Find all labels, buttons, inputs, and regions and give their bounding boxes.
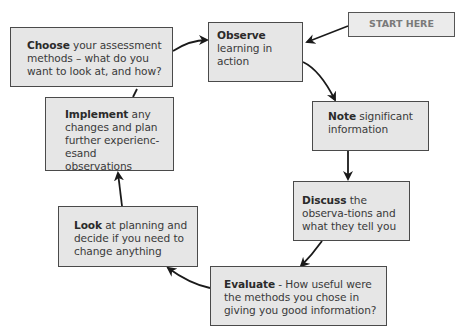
- arrow-evaluate-to-look: [168, 268, 210, 288]
- step-evaluate: Evaluate - How useful were the methods y…: [210, 266, 387, 326]
- step-note-keyword: Note: [328, 110, 356, 122]
- step-observe-keyword: Observe: [217, 29, 266, 41]
- arrow-start-to-observe: [307, 26, 348, 42]
- step-choose-keyword: Choose: [27, 39, 70, 51]
- step-observe: Observe learning in action: [208, 22, 303, 82]
- step-implement: Implement any changes and plan further e…: [45, 97, 174, 171]
- arrow-choose-to-observe: [173, 40, 207, 51]
- arrow-implement-to-choose: [133, 89, 137, 97]
- arrow-observe-to-note: [303, 62, 335, 100]
- step-choose: Choose your assessment methods – what do…: [10, 27, 173, 87]
- arrow-look-to-implement: [118, 173, 122, 206]
- step-discuss-keyword: Discuss: [302, 194, 346, 206]
- step-evaluate-keyword: Evaluate: [224, 278, 275, 290]
- step-implement-keyword: Implement: [65, 108, 128, 120]
- arrow-discuss-to-evaluate: [301, 241, 322, 266]
- start-here-label: START HERE: [348, 12, 455, 37]
- step-look: Look at planning and decide if you need …: [58, 206, 198, 267]
- step-look-keyword: Look: [74, 219, 102, 231]
- step-note: Note significant information: [312, 101, 429, 151]
- step-observe-text: learning in action: [217, 42, 272, 67]
- step-discuss: Discuss the observa-tions and what they …: [293, 181, 410, 241]
